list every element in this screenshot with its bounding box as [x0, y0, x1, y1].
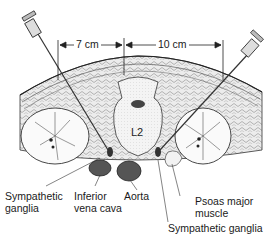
vertebra-label: L2 [131, 126, 143, 138]
label-sympathetic-ganglia-right: Sympathetic ganglia [168, 222, 263, 234]
aorta [117, 161, 141, 181]
psoas-muscle-right [165, 151, 182, 166]
inferior-vena-cava [89, 160, 111, 176]
sympathetic-ganglion-right [155, 147, 161, 157]
left-kidney [21, 108, 89, 164]
spinal-canal [131, 100, 145, 108]
label-sympathetic-ganglia-left: Sympathetic ganglia [5, 190, 63, 214]
vertebra-l2: L2 [114, 77, 163, 156]
measurement-right: 10 cm [156, 38, 189, 50]
right-kidney [175, 108, 231, 164]
label-psoas-major: Psoas major muscle [195, 195, 253, 219]
sympathetic-ganglion-left [107, 147, 113, 157]
label-inferior-vena-cava: Inferior vena cava [74, 190, 122, 214]
measurement-left: 7 cm [74, 38, 101, 50]
label-aorta: Aorta [124, 190, 149, 202]
